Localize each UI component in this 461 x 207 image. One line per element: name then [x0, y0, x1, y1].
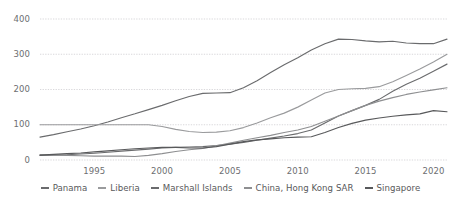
legend-line-icon [98, 187, 106, 188]
x-tick-label: 1995 [76, 167, 112, 176]
chart-legend: PanamaLiberiaMarshall IslandsChina, Hong… [0, 183, 461, 193]
y-tick-label: 200 [4, 85, 30, 94]
legend-item[interactable]: China, Hong Kong SAR [244, 183, 354, 193]
legend-item[interactable]: Marshall Islands [151, 183, 233, 193]
series-line-liberia [40, 54, 447, 132]
series-line-singapore [40, 111, 447, 155]
legend-line-icon [151, 187, 159, 188]
series-line-china-hong-kong-sar [40, 88, 447, 157]
y-tick-label: 400 [4, 15, 30, 24]
legend-item[interactable]: Liberia [98, 183, 139, 193]
x-tick-label: 2015 [348, 167, 384, 176]
y-tick-label: 300 [4, 50, 30, 59]
legend-item[interactable]: Singapore [365, 183, 421, 193]
legend-item-label: China, Hong Kong SAR [256, 183, 354, 193]
legend-item-label: Panama [53, 183, 88, 193]
x-tick-label: 2020 [415, 167, 451, 176]
y-tick-label: 0 [4, 156, 30, 165]
legend-line-icon [365, 187, 373, 188]
legend-line-icon [244, 187, 252, 188]
legend-line-icon [41, 187, 49, 188]
x-tick-label: 2005 [212, 167, 248, 176]
line-chart: 0100200300400 199520002005201020152020 P… [0, 0, 461, 207]
legend-item-label: Singapore [377, 183, 421, 193]
x-tick-label: 2010 [280, 167, 316, 176]
series-line-panama [40, 39, 447, 137]
legend-item-label: Liberia [110, 183, 139, 193]
legend-item-label: Marshall Islands [163, 183, 233, 193]
legend-item[interactable]: Panama [41, 183, 88, 193]
y-tick-label: 100 [4, 120, 30, 129]
x-tick-label: 2000 [144, 167, 180, 176]
